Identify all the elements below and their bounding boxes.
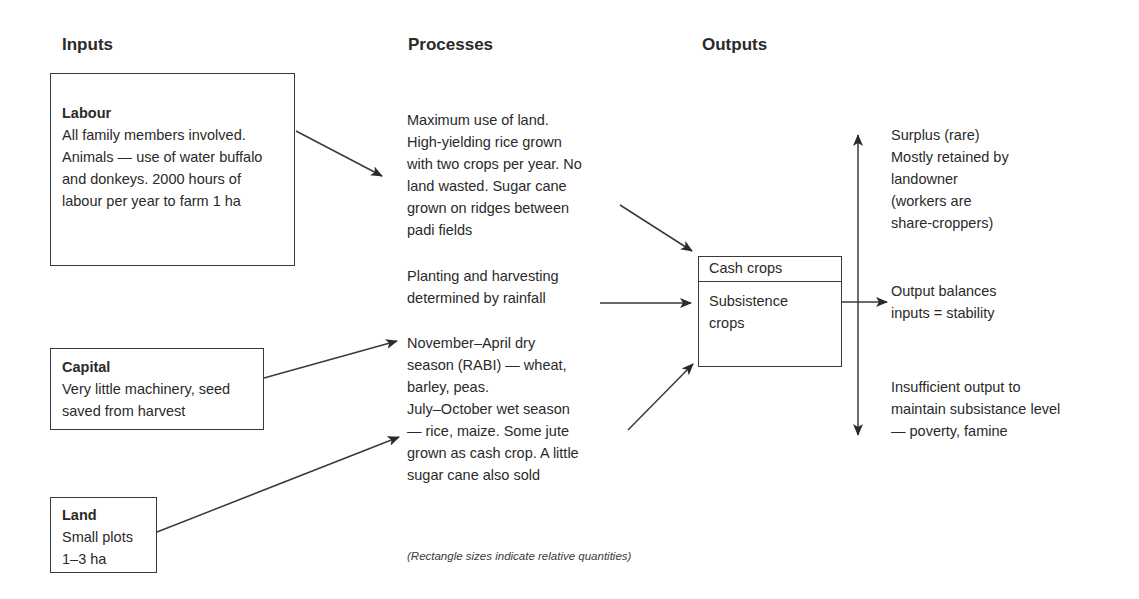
- output-text-insufficient: Insufficient output to maintain subsista…: [891, 376, 1060, 442]
- inputs-header: Inputs: [62, 35, 113, 55]
- input-text-land: Small plots 1–3 ha: [62, 526, 150, 570]
- crops-box: Cash crops Subsistence crops: [698, 256, 842, 367]
- input-title-labour: Labour: [62, 102, 284, 124]
- input-text-labour: All family members involved. Animals — u…: [62, 124, 284, 212]
- input-title-capital: Capital: [62, 356, 257, 378]
- arrow-capital-to-seasons: [264, 341, 397, 378]
- input-box-capital: Capital Very little machinery, seed save…: [50, 348, 264, 430]
- input-title-land: Land: [62, 504, 150, 526]
- arrow-land-use-to-crops: [620, 205, 692, 251]
- input-box-land: Land Small plots 1–3 ha: [50, 497, 157, 573]
- caption: (Rectangle sizes indicate relative quant…: [407, 550, 631, 562]
- arrow-labour-to-processes: [296, 131, 382, 176]
- output-text-surplus: Surplus (rare) Mostly retained by landow…: [891, 124, 1009, 234]
- processes-header: Processes: [408, 35, 493, 55]
- arrow-seasons-to-crops: [628, 364, 693, 430]
- process-text-land-use: Maximum use of land. High-yielding rice …: [407, 109, 582, 241]
- output-text-stability: Output balances inputs = stability: [891, 280, 997, 324]
- process-text-rainfall: Planting and harvesting determined by ra…: [407, 265, 559, 309]
- cash-crops-label: Cash crops: [699, 257, 841, 281]
- subsistence-crops-label: Subsistence crops: [699, 282, 841, 334]
- input-text-capital: Very little machinery, seed saved from h…: [62, 378, 257, 422]
- arrow-land-to-seasons: [157, 437, 399, 532]
- input-box-labour: Labour All family members involved. Anim…: [50, 73, 295, 266]
- process-text-seasons: November–April dry season (RABI) — wheat…: [407, 332, 579, 486]
- outputs-header: Outputs: [702, 35, 767, 55]
